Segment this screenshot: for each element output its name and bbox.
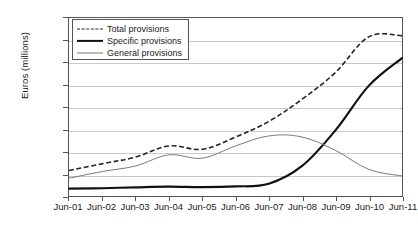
legend-label: General provisions (107, 48, 182, 59)
series-line-general-provisions (69, 135, 402, 178)
x-axis-tick-label: Jun-07 (254, 201, 283, 212)
x-axis-tick-label: Jun-02 (87, 201, 116, 212)
legend-item-general-provisions: General provisions (77, 47, 184, 59)
thick-solid-line-swatch-icon (77, 36, 103, 46)
x-axis-tick-label: Jun-05 (187, 201, 216, 212)
legend: Total provisions Specific provisions Gen… (72, 19, 189, 60)
legend-item-specific-provisions: Specific provisions (77, 35, 184, 47)
legend-item-total-provisions: Total provisions (77, 23, 184, 35)
x-axis-tick-label: Jun-10 (355, 201, 384, 212)
x-axis-tick-label: Jun-09 (321, 201, 350, 212)
legend-label: Total provisions (107, 24, 169, 35)
x-axis-tick-label: Jun-11 (389, 201, 417, 212)
dashed-line-swatch-icon (77, 24, 103, 34)
x-axis-tick-label: Jun-06 (221, 201, 250, 212)
x-axis-tick-label: Jun-08 (288, 201, 317, 212)
x-axis-tick-label: Jun-01 (53, 201, 82, 212)
thin-solid-line-swatch-icon (77, 48, 103, 58)
y-axis-title: Euros (millions) (19, 0, 30, 136)
x-axis-tick-label: Jun-03 (120, 201, 149, 212)
line-chart: Euros (millions) 010,00020,00030,00040,0… (0, 0, 418, 231)
x-axis-tick-label: Jun-04 (154, 201, 183, 212)
legend-label: Specific provisions (107, 36, 182, 47)
